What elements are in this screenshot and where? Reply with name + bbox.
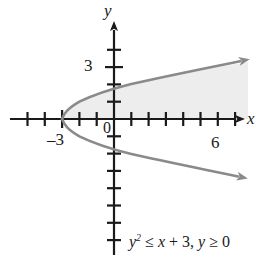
x-tick-label-minus-3: –3 (47, 131, 64, 148)
axis-label-x: x (247, 110, 255, 127)
axis-label-y: y (104, 2, 112, 19)
figure-parabola-inequality: y x 0 3 –3 6 y2 ≤ x + 3, y ≥ 0 (0, 0, 256, 264)
inequality-caption: y2 ≤ x + 3, y ≥ 0 (129, 232, 230, 251)
y-tick-label-3: 3 (84, 57, 93, 74)
caption-rel1: ≤ (141, 233, 158, 250)
caption-plus: + 3, (165, 233, 198, 250)
caption-x: x (158, 233, 165, 250)
origin-label: 0 (103, 120, 111, 136)
graph-canvas (0, 0, 256, 264)
x-tick-label-6: 6 (211, 134, 220, 151)
caption-rel2: ≥ 0 (205, 233, 230, 250)
